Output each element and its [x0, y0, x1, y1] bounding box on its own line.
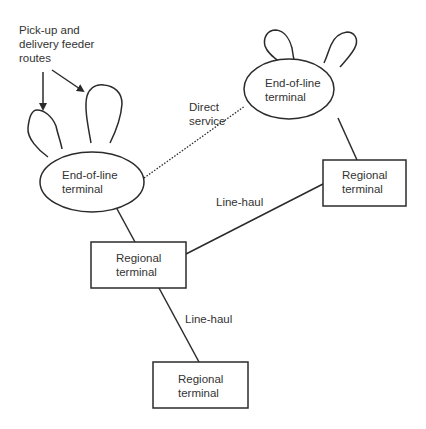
- right-eol-label-line1: End-of-line: [265, 76, 321, 90]
- right-regional-label-line2: terminal: [342, 182, 387, 196]
- line-haul-lower-label: Line-haul: [185, 312, 232, 326]
- right-feeder-loop-right-ear: [324, 32, 357, 67]
- bottom-regional-label-line2: terminal: [178, 386, 223, 400]
- middle-regional-label-line1: Regional: [116, 251, 161, 265]
- right-eol-to-right-regional-line: [338, 118, 357, 160]
- right-regional-label-line1: Regional: [342, 168, 387, 182]
- left-eol-terminal-label: End-of-line terminal: [62, 168, 118, 196]
- direct-service-line1: Direct: [189, 100, 225, 114]
- bottom-regional-terminal-label: Regional terminal: [178, 372, 223, 400]
- direct-service-line2: service: [189, 114, 225, 128]
- right-eol-label-line2: terminal: [265, 90, 321, 104]
- bottom-regional-label-line1: Regional: [178, 372, 223, 386]
- direct-service-annotation: Direct service: [189, 100, 225, 128]
- left-eol-label-line2: terminal: [62, 182, 118, 196]
- feeder-routes-annotation: Pick-up and delivery feeder routes: [19, 23, 94, 65]
- left-eol-to-middle-regional-line: [116, 207, 135, 242]
- middle-regional-terminal-label: Regional terminal: [116, 251, 161, 279]
- right-eol-terminal-label: End-of-line terminal: [265, 76, 321, 104]
- right-regional-terminal-label: Regional terminal: [342, 168, 387, 196]
- middle-regional-label-line2: terminal: [116, 265, 161, 279]
- feeder-arrow-diagonal: [52, 70, 83, 91]
- line-haul-upper-label: Line-haul: [216, 195, 263, 209]
- feeder-routes-line3: routes: [19, 51, 94, 65]
- left-feeder-loop-tall: [86, 85, 122, 143]
- feeder-routes-line2: delivery feeder: [19, 37, 94, 51]
- left-feeder-loop-small: [28, 110, 62, 157]
- left-eol-label-line1: End-of-line: [62, 168, 118, 182]
- feeder-routes-line1: Pick-up and: [19, 23, 94, 37]
